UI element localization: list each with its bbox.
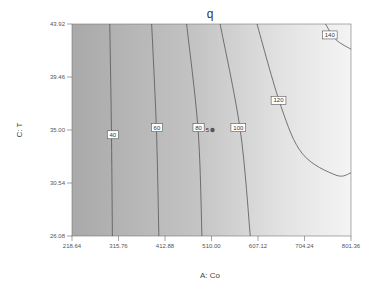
contour-label: 60 — [154, 125, 161, 131]
y-tick-label: 26.08 — [50, 233, 66, 239]
chart-title: q — [207, 7, 214, 21]
x-tick-label: 801.36 — [342, 243, 361, 249]
y-tick-label: 35.00 — [50, 127, 66, 133]
contour-label: 100 — [233, 125, 244, 131]
contour-label: 40 — [110, 132, 117, 138]
contour-label: 120 — [274, 97, 285, 103]
x-axis-title: A: Co — [200, 271, 221, 280]
y-tick-label: 39.46 — [50, 74, 66, 80]
y-tick-label: 30.54 — [50, 180, 66, 186]
x-tick-label: 218.64 — [63, 243, 82, 249]
contour-label: 140 — [325, 32, 336, 38]
x-tick-label: 607.12 — [249, 243, 268, 249]
x-axis: 218.64315.76412.88510.00607.12704.24801.… — [63, 236, 361, 249]
x-tick-label: 412.88 — [156, 243, 175, 249]
x-tick-label: 704.24 — [295, 243, 314, 249]
y-tick-label: 43.92 — [50, 21, 66, 27]
plot-area: 406080100120140 5 — [72, 24, 351, 236]
x-tick-label: 315.76 — [109, 243, 128, 249]
design-point-dot — [210, 128, 214, 132]
x-tick-label: 510.00 — [202, 243, 221, 249]
contour-plot: q 406080100120140 5 43.9239.4635.0030.54… — [0, 0, 371, 294]
contour-label: 80 — [195, 125, 202, 131]
y-axis-title: C: T — [15, 122, 24, 137]
y-axis: 43.9239.4635.0030.5426.08 — [50, 21, 72, 239]
